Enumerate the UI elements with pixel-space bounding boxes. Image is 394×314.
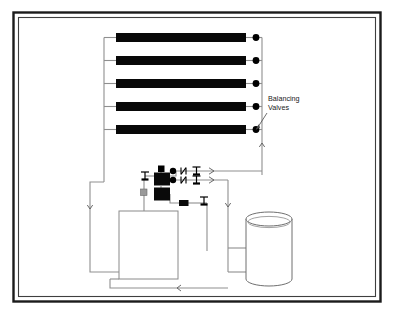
balancing-valve xyxy=(253,57,260,64)
pool-heat-exchanger xyxy=(119,211,178,279)
pressure-gauge xyxy=(141,189,148,196)
controller-module xyxy=(154,188,170,201)
collector-panel xyxy=(116,79,246,88)
collector-panel xyxy=(116,102,246,111)
balancing-valves-label-line1: Balancing xyxy=(268,94,300,103)
schematic-canvas: Balancing Valves xyxy=(0,0,394,314)
pump-module xyxy=(154,173,170,186)
inline-pump xyxy=(179,200,189,206)
tank-top-ellipse xyxy=(246,212,292,226)
junction-dot xyxy=(170,168,176,174)
balancing-valve xyxy=(253,34,260,41)
collector-panel xyxy=(116,56,246,65)
balancing-valve xyxy=(253,80,260,87)
balancing-valve xyxy=(253,103,260,110)
collector-panel xyxy=(116,33,246,42)
solar-thermal-schematic: Balancing Valves xyxy=(0,0,394,314)
expansion-cap xyxy=(158,166,165,173)
junction-dot xyxy=(170,177,176,183)
collector-panel xyxy=(116,125,246,134)
canvas-background xyxy=(0,0,394,314)
balancing-valves-label-line2: Valves xyxy=(268,103,289,112)
